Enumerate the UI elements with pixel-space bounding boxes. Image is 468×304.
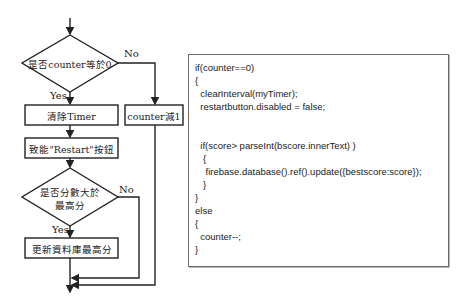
- decision-score-line2: 最高分: [22, 198, 118, 212]
- code-line: {: [195, 218, 198, 229]
- code-line: firebase.database().ref().update({bestsc…: [195, 166, 422, 177]
- decision2-yes-label: Yes: [52, 224, 69, 235]
- process-counter-decrement: counter減1: [125, 109, 183, 123]
- decision-counter-zero: 是否counter等於0: [22, 57, 118, 71]
- decision2-no-label: No: [119, 184, 134, 195]
- code-line: counter--;: [195, 231, 241, 242]
- code-line: }: [195, 244, 198, 255]
- decision1-yes-label: Yes: [50, 90, 67, 101]
- process-clear-timer: 清除Timer: [25, 109, 118, 123]
- code-line: clearInterval(myTimer);: [195, 88, 298, 99]
- decision1-no-label: No: [124, 48, 139, 59]
- code-line: {: [195, 75, 198, 86]
- code-line: if(score> parseInt(bscore.innerText) ): [195, 140, 356, 151]
- code-line: }: [195, 179, 206, 190]
- process-update-db: 更新資料庫最高分: [25, 242, 118, 256]
- code-line: }: [195, 192, 198, 203]
- code-line: else: [195, 205, 212, 216]
- code-line: if(counter==0): [195, 62, 254, 73]
- decision-score-line1: 是否分數大於: [22, 185, 118, 199]
- code-panel: if(counter==0) { clearInterval(myTimer);…: [188, 54, 449, 267]
- code-line: restartbutton.disabled = false;: [195, 101, 325, 112]
- code-line: {: [195, 153, 206, 164]
- process-enable-restart: 致能"Restart"按鈕: [25, 142, 118, 156]
